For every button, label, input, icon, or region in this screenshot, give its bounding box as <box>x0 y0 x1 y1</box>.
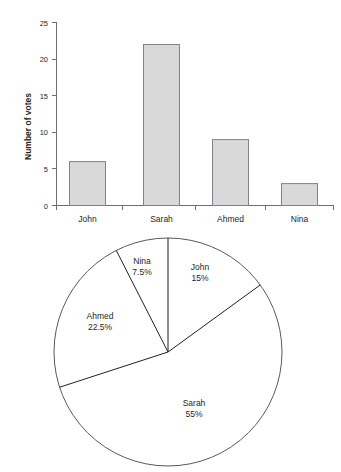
bar-ahmed <box>213 140 249 206</box>
y-tick-label-5: 5 <box>44 165 48 174</box>
pie-label-nina-name: Nina <box>133 256 151 266</box>
x-axis-ticks <box>57 206 334 211</box>
bar-chart: 25 20 15 10 5 0 Number of votes John Sar… <box>0 0 341 236</box>
x-category-label-john: John <box>78 214 97 224</box>
pie-label-sarah-name: Sarah <box>183 398 206 408</box>
pie-chart: Nina 7.5% John 15% Ahmed 22.5% Sarah 55% <box>0 236 341 472</box>
pie-label-ahmed-percent: 22.5% <box>88 322 113 332</box>
pie-label-john-percent: 15% <box>191 273 208 283</box>
x-category-label-nina: Nina <box>291 214 309 224</box>
pie-label-sarah-percent: 55% <box>185 409 202 419</box>
pie-label-ahmed-name: Ahmed <box>87 311 114 321</box>
bar-nina <box>282 184 318 206</box>
bar-sarah <box>144 45 180 206</box>
x-category-label-sarah: Sarah <box>150 214 173 224</box>
pie-label-john-name: John <box>191 262 210 272</box>
y-tick-label-15: 15 <box>40 92 48 101</box>
y-tick-label-25: 25 <box>40 19 48 28</box>
y-axis-title: Number of votes <box>23 93 33 160</box>
y-tick-label-0: 0 <box>44 202 48 211</box>
pie-label-john: John 15% <box>191 262 210 283</box>
pie-label-sarah: Sarah 55% <box>183 398 206 419</box>
x-category-label-ahmed: Ahmed <box>217 214 244 224</box>
y-tick-label-10: 10 <box>40 128 48 137</box>
y-axis-ticks <box>52 23 57 206</box>
pie-label-nina: Nina 7.5% <box>132 256 152 277</box>
figure-root: 25 20 15 10 5 0 Number of votes John Sar… <box>0 0 341 472</box>
bar-john <box>70 162 106 206</box>
y-tick-label-20: 20 <box>40 55 48 64</box>
pie-label-nina-percent: 7.5% <box>132 267 152 277</box>
pie-label-ahmed: Ahmed 22.5% <box>87 311 114 332</box>
